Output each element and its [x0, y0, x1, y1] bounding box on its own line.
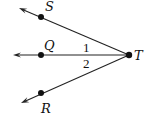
point-label-R: R — [40, 101, 51, 116]
point-S — [38, 14, 44, 20]
point-label-T: T — [134, 48, 144, 63]
point-label-Q: Q — [44, 38, 55, 53]
point-T — [126, 52, 132, 58]
angle-label-1: 1 — [83, 40, 90, 55]
rays-group — [13, 8, 129, 103]
angle-label-2: 2 — [83, 56, 90, 71]
angle-diagram: SQRT12 — [0, 0, 150, 118]
point-label-S: S — [45, 0, 54, 14]
point-R — [38, 90, 44, 96]
